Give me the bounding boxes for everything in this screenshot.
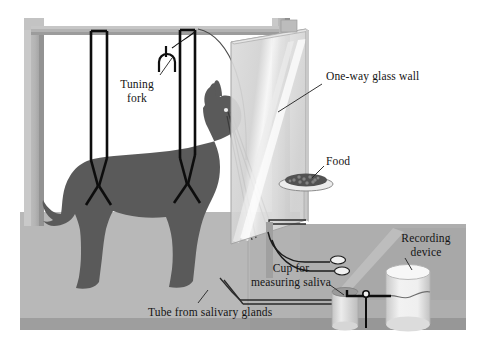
- tube-funnel-upper: [331, 256, 346, 264]
- tuning-fork-icon: [159, 31, 196, 72]
- conditioning-apparatus-figure: Tuning fork One-way glass wall Food Cup …: [0, 0, 478, 354]
- apparatus-illustration: [0, 0, 478, 354]
- measuring-cup: [332, 288, 358, 331]
- pipe-post: [266, 222, 273, 278]
- one-way-glass-wall: [231, 20, 309, 244]
- recording-drum: [386, 265, 430, 332]
- tube-funnel-lower: [335, 267, 350, 275]
